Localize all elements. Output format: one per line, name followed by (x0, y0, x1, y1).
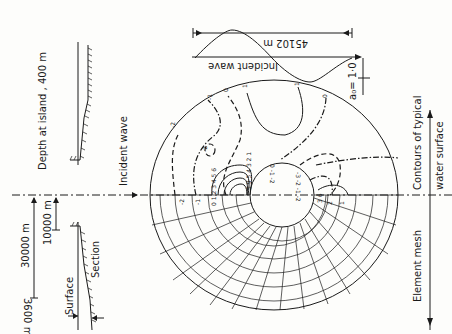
arrow-icon (343, 30, 349, 36)
element-mesh (150, 195, 398, 310)
contour-label: -3 -2 -1 -2 (295, 172, 302, 202)
axis-label: -1 (194, 199, 201, 205)
seabed-line-top (70, 45, 88, 160)
surface-label: Surface (64, 277, 75, 315)
water-surface-contours (172, 87, 398, 195)
contour-label: -2 (201, 146, 208, 152)
axis-label: 3 6 (316, 193, 323, 203)
axis-label: 1 (338, 201, 345, 205)
contour-label: 0 (321, 94, 328, 98)
section-label: Section (90, 241, 101, 278)
arrow-icon (196, 30, 202, 36)
dim-30000-label: 30000 m (20, 223, 31, 268)
arrow-icon (355, 54, 362, 60)
contour-label: -1 (206, 94, 213, 100)
contours-caption-2: water surface (434, 121, 445, 190)
axis-label: -2 (178, 199, 185, 205)
dim-3600-label: 3600 m (22, 298, 33, 334)
incident-wave-sketch: 45102 m Incident wave a₀= 1·0 (192, 28, 370, 100)
legend: Contours of typical water surface Elemen… (412, 95, 445, 330)
contour-label: 1 (293, 82, 300, 86)
depth-at-island-label: Depth at island , 400 m (37, 52, 48, 170)
arrow-up-icon (427, 110, 433, 118)
diagram-svg: Depth at island , 400 m Incident wave Se… (0, 0, 452, 334)
axis-label: 0 1 2 3 4 5 6 (210, 168, 217, 206)
wavelength-label: 45102 m (263, 38, 308, 49)
amplitude-label: a₀= 1·0 (347, 62, 358, 100)
incident-wave-arrow-icon (132, 192, 138, 198)
incident-wave-label-left: Incident wave (118, 116, 129, 186)
seabed-hatching-top (70, 48, 92, 160)
contour-label: -2 (169, 122, 176, 128)
arrow-icon (73, 313, 78, 319)
arrow-icon (31, 197, 37, 203)
arrow-down-icon (427, 318, 433, 326)
contour-label: 1 (241, 84, 248, 88)
incident-wave-curve (195, 30, 352, 82)
contours-caption-1: Contours of typical (412, 95, 423, 190)
incident-wave-label-top: Incident wave (208, 61, 278, 72)
contour-label: 0 -1 -2 (269, 164, 276, 184)
contour-label: 0 (222, 88, 229, 92)
dim-10000-label: 10000 m (42, 200, 53, 245)
element-mesh-caption: Element mesh (412, 230, 423, 302)
contour-label: 5 9 5 4 3 2 1 (245, 152, 252, 190)
arrow-icon (53, 197, 59, 203)
diagram-canvas: Depth at island , 400 m Incident wave Se… (0, 0, 452, 334)
axis-label: 2 (326, 201, 333, 205)
